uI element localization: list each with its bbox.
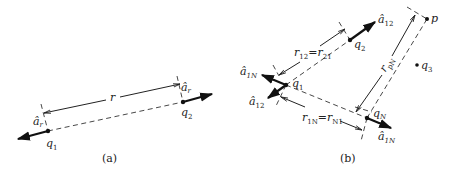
coulomb-force-diagram: r q1 q2 âr âr (a) r12=r21 [0,0,451,177]
dimension-r12-right [320,29,345,46]
figure-a: r q1 q2 âr âr (a) [18,76,212,165]
dimension-line-r-left [44,100,106,113]
unit-vector-label-a1N-qN: â1N [378,130,396,145]
charge-label-q3: q3 [421,59,433,74]
unit-vector-arrow-a1N-at-q1 [262,75,286,85]
dimension-r12-left [279,62,300,75]
unit-vector-arrow-q2 [183,94,212,102]
charge-label-q1: q1 [46,137,58,152]
extension-tick-q1-upper [273,65,279,76]
dimension-rpN-upper [392,15,415,56]
charge-label-q2: q2 [354,38,366,53]
charge-label-q2: q2 [181,106,193,121]
charge-q1-dot [46,129,50,133]
unit-vector-arrow-q1 [18,131,48,139]
unit-vector-label-a12-q1: â12 [249,95,264,110]
caption-a: (a) [102,152,117,165]
separation-line-dashed [48,102,183,131]
unit-vector-label-ar-q1: âr [33,115,44,129]
unit-vector-label-a1N-q1: â1N [240,65,258,80]
charge-q2-dot [181,100,185,104]
charge-q1-dot [284,83,288,87]
distance-label-r: r [110,91,116,104]
extension-tick-q2 [339,22,350,40]
unit-vector-arrow-a12-at-q1 [268,85,286,98]
unit-vector-label-ar-q2: âr [181,81,192,95]
dimension-r1N-left [281,97,305,107]
charge-q2-dot [348,38,352,42]
charge-label-qN: qN [373,107,387,121]
caption-b: (b) [340,152,356,165]
charge-qN-dot [365,116,369,120]
figure-b: r12=r21 r1N=rN1 rpN q1 q2 q3 qN p â12 â1… [240,7,438,165]
dimension-line-r-right [120,84,180,97]
point-p-dot [425,17,429,21]
point-label-p: p [431,12,438,25]
dimension-r1N-right [340,121,362,130]
charge-q3-dot [415,63,419,67]
distance-label-r12-r21: r12=r21 [294,46,332,61]
unit-vector-label-a12-q2: â12 [378,13,393,28]
charge-label-q1: q1 [292,77,304,92]
distance-label-r1N-rN1: r1N=rN1 [302,111,343,126]
extension-tick-p [407,7,427,19]
separation-line-qN-p [367,19,427,118]
